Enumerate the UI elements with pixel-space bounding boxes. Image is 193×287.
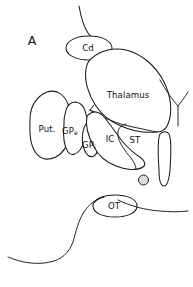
- label-thalamus: Thalamus: [106, 90, 150, 100]
- label-optic-tract: OT: [108, 201, 121, 211]
- label-putamen: Put.: [39, 124, 56, 134]
- label-globus-pallidus-interna: GPi: [82, 140, 96, 151]
- label-gpe-base: GP: [62, 126, 74, 136]
- panel-label-a: A: [28, 33, 37, 48]
- label-gpi-subscript: i: [94, 143, 96, 150]
- label-gpi-base: GP: [82, 140, 94, 150]
- brain-section-diagram: A Cd Thalamus Put. GPe GPi IC ST OT: [0, 0, 193, 287]
- label-subthalamic: ST: [130, 135, 142, 145]
- figure-panel-a: A Cd Thalamus Put. GPe GPi IC ST OT: [0, 0, 193, 287]
- label-internal-capsule: IC: [106, 134, 115, 144]
- label-gpe-subscript: e: [74, 129, 78, 136]
- label-caudate: Cd: [82, 43, 94, 53]
- vertical-tract-outline: [158, 132, 170, 186]
